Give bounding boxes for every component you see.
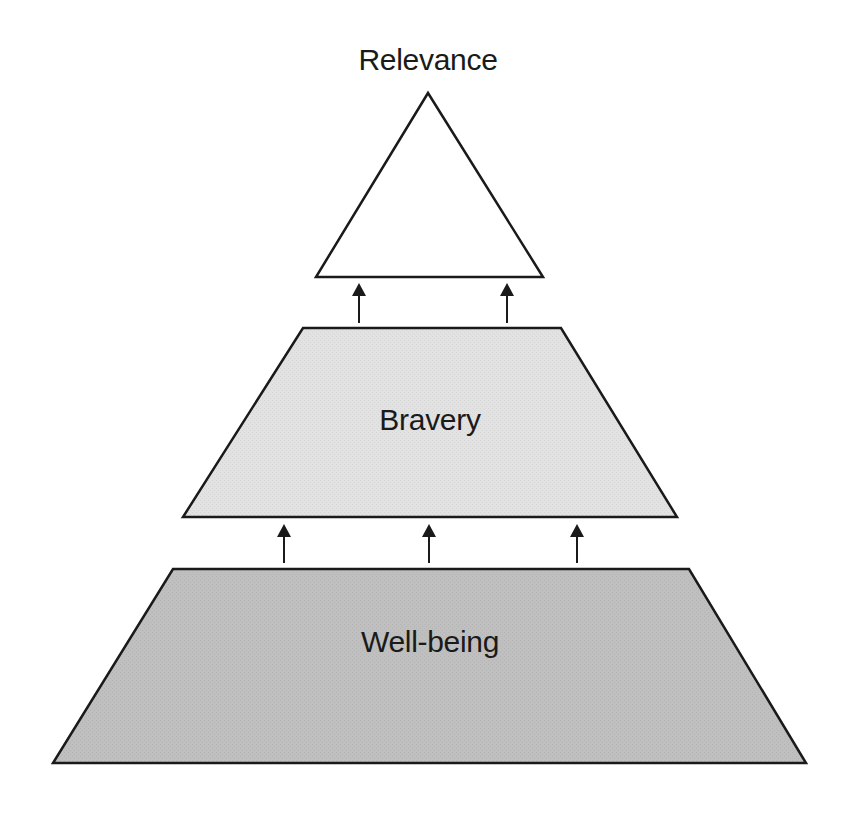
label-relevance: Relevance — [358, 43, 497, 77]
arrow-up-icon — [277, 524, 291, 563]
top-triangle — [316, 93, 543, 277]
arrow-up-icon — [422, 524, 436, 563]
arrow-up-icon — [570, 524, 584, 563]
label-bravery: Bravery — [379, 403, 480, 437]
arrow-up-icon — [352, 283, 366, 323]
label-well-being: Well-being — [361, 625, 499, 659]
arrow-up-icon — [500, 283, 514, 323]
